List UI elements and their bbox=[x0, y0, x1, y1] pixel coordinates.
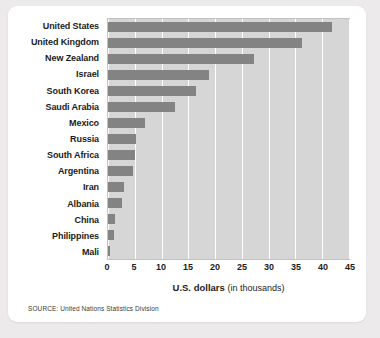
category-label: United Kingdom bbox=[8, 34, 105, 50]
x-axis-title-light: (in thousands) bbox=[227, 283, 284, 293]
gridline bbox=[349, 19, 350, 259]
bar-chart: United StatesUnited KingdomNew ZealandIs… bbox=[8, 6, 366, 322]
bar bbox=[108, 38, 302, 48]
bar-row bbox=[108, 131, 349, 147]
category-label: Iran bbox=[8, 179, 105, 195]
category-label: Russia bbox=[8, 131, 105, 147]
x-tick-label: 15 bbox=[183, 262, 193, 272]
bar bbox=[108, 230, 114, 240]
x-tick-label: 35 bbox=[291, 262, 301, 272]
plot-area bbox=[107, 18, 350, 260]
x-tick-label: 20 bbox=[210, 262, 220, 272]
chart-card: United StatesUnited KingdomNew ZealandIs… bbox=[8, 6, 366, 322]
x-tick-label: 25 bbox=[237, 262, 247, 272]
category-label: South Africa bbox=[8, 147, 105, 163]
bar-row bbox=[108, 115, 349, 131]
category-label: Mexico bbox=[8, 115, 105, 131]
bar bbox=[108, 214, 115, 224]
bar bbox=[108, 102, 175, 112]
bar bbox=[108, 182, 124, 192]
category-label: Mali bbox=[8, 244, 105, 260]
x-axis-ticks: 051015202530354045 bbox=[107, 262, 350, 276]
bar-row bbox=[108, 147, 349, 163]
category-label: South Korea bbox=[8, 83, 105, 99]
bar-row bbox=[108, 99, 349, 115]
bar-row bbox=[108, 243, 349, 259]
bar bbox=[108, 54, 254, 64]
x-tick-label: 30 bbox=[264, 262, 274, 272]
bar-row bbox=[108, 35, 349, 51]
x-tick-label: 0 bbox=[104, 262, 109, 272]
bar bbox=[108, 70, 209, 80]
bar bbox=[108, 134, 136, 144]
category-label: Israel bbox=[8, 66, 105, 82]
bar-row bbox=[108, 67, 349, 83]
bar-series bbox=[108, 19, 349, 259]
bar bbox=[108, 22, 332, 32]
category-label: China bbox=[8, 212, 105, 228]
bar bbox=[108, 118, 145, 128]
bar-row bbox=[108, 211, 349, 227]
category-label: Saudi Arabia bbox=[8, 99, 105, 115]
bar bbox=[108, 166, 133, 176]
category-label: New Zealand bbox=[8, 50, 105, 66]
category-axis-labels: United StatesUnited KingdomNew ZealandIs… bbox=[8, 18, 105, 260]
bar bbox=[108, 86, 196, 96]
bar bbox=[108, 198, 122, 208]
x-tick-label: 40 bbox=[318, 262, 328, 272]
x-tick-label: 10 bbox=[156, 262, 166, 272]
bar bbox=[108, 246, 110, 256]
source-note: SOURCE: United Nations Statistics Divisi… bbox=[28, 305, 159, 312]
bar-row bbox=[108, 19, 349, 35]
bar-row bbox=[108, 227, 349, 243]
bar-row bbox=[108, 163, 349, 179]
bar bbox=[108, 150, 135, 160]
category-label: United States bbox=[8, 18, 105, 34]
bar-row bbox=[108, 51, 349, 67]
bar-row bbox=[108, 195, 349, 211]
x-tick-label: 45 bbox=[345, 262, 355, 272]
category-label: Philippines bbox=[8, 228, 105, 244]
category-label: Argentina bbox=[8, 163, 105, 179]
bar-row bbox=[108, 83, 349, 99]
x-axis-title-strong: U.S. dollars bbox=[173, 282, 225, 293]
bar-row bbox=[108, 179, 349, 195]
category-label: Albania bbox=[8, 196, 105, 212]
x-tick-label: 5 bbox=[131, 262, 136, 272]
x-axis-title: U.S. dollars (in thousands) bbox=[107, 282, 350, 293]
